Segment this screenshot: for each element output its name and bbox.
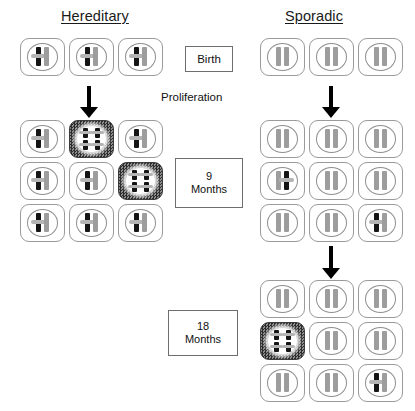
- normal-chromosome-icon: [333, 129, 338, 148]
- normal-chromosome-icon: [284, 213, 289, 232]
- cell-grid-sporadic-18-months: [258, 278, 405, 404]
- chromosome-group: [67, 36, 116, 78]
- normal-chromosome-icon: [284, 129, 289, 148]
- stage-label-18-months-number: 18: [197, 320, 209, 333]
- chromosome-group: [307, 118, 356, 160]
- mutated-chromosome-icon: [83, 140, 88, 150]
- chromosome-group: [307, 320, 356, 362]
- mutated-chromosome-icon: [85, 213, 90, 232]
- chromosome-group: [356, 36, 405, 78]
- chromosome-group: [18, 202, 67, 244]
- normal-chromosome-icon: [142, 213, 147, 232]
- chromosome-group: [116, 160, 165, 202]
- normal-chromosome-icon: [333, 373, 338, 392]
- chromosome-group: [356, 118, 405, 160]
- mutated-chromosome-icon: [36, 129, 41, 148]
- cell: [18, 160, 67, 202]
- normal-chromosome-icon: [333, 47, 338, 66]
- column-title-hereditary: Hereditary: [61, 8, 129, 24]
- mutated-chromosome-icon: [134, 129, 139, 148]
- normal-chromosome-icon: [44, 47, 49, 66]
- mutated-chromosome-icon: [132, 182, 137, 192]
- chromosome-group: [18, 118, 67, 160]
- cell: [307, 118, 356, 160]
- normal-chromosome-icon: [44, 213, 49, 232]
- cell: [258, 202, 307, 244]
- cell-grid-hereditary-9-months: [18, 118, 165, 244]
- cell: [67, 160, 116, 202]
- normal-chromosome-icon: [382, 213, 387, 232]
- normal-chromosome-icon: [276, 373, 281, 392]
- cell: [67, 36, 116, 78]
- tumor-cell: [116, 160, 165, 202]
- tumor-cell: [67, 118, 116, 160]
- chromosome-group: [307, 278, 356, 320]
- chromosome-group: [67, 118, 116, 160]
- stage-label-9-months-unit: Months: [191, 183, 227, 196]
- cell: [307, 36, 356, 78]
- chromosome-group: [18, 160, 67, 202]
- chromosome-group: [258, 160, 307, 202]
- chromosome-group: [18, 36, 67, 78]
- stage-label-18-months: 18 Months: [168, 310, 238, 356]
- arrow-down-icon-sporadic-9mo-to-18mo: [320, 246, 342, 280]
- chromosome-group: [67, 160, 116, 202]
- mutated-chromosome-icon: [144, 182, 149, 192]
- cell: [116, 202, 165, 244]
- mutated-chromosome-icon: [274, 330, 279, 340]
- normal-chromosome-icon: [142, 47, 147, 66]
- cell-grid-sporadic-birth: [258, 36, 405, 78]
- normal-chromosome-icon: [44, 129, 49, 148]
- cell: [307, 320, 356, 362]
- stage-label-9-months: 9 Months: [175, 158, 243, 208]
- normal-chromosome-icon: [93, 47, 98, 66]
- normal-chromosome-icon: [284, 47, 289, 66]
- chromosome-group: [356, 202, 405, 244]
- cell: [258, 278, 307, 320]
- arrow-shaft: [87, 86, 91, 108]
- normal-chromosome-icon: [93, 213, 98, 232]
- cell: [258, 160, 307, 202]
- normal-chromosome-icon: [333, 171, 338, 190]
- arrow-down-icon-hereditary-birth-to-9mo: [78, 86, 100, 118]
- cell: [258, 36, 307, 78]
- normal-chromosome-icon: [333, 213, 338, 232]
- normal-chromosome-icon: [374, 289, 379, 308]
- cell: [307, 160, 356, 202]
- cell: [356, 118, 405, 160]
- chromosome-group: [258, 278, 307, 320]
- cell: [356, 160, 405, 202]
- normal-chromosome-icon: [276, 129, 281, 148]
- chromosome-group: [258, 202, 307, 244]
- chromosome-group: [258, 36, 307, 78]
- normal-chromosome-icon: [142, 129, 147, 148]
- cell: [356, 202, 405, 244]
- cell: [307, 202, 356, 244]
- mutated-chromosome-icon: [36, 213, 41, 232]
- normal-chromosome-icon: [382, 373, 387, 392]
- normal-chromosome-icon: [382, 129, 387, 148]
- mutated-chromosome-icon: [85, 171, 90, 190]
- chromosome-group: [258, 118, 307, 160]
- chromosome-group: [258, 362, 307, 404]
- normal-chromosome-icon: [374, 129, 379, 148]
- arrow-head: [80, 107, 98, 118]
- mutated-chromosome-icon: [374, 373, 379, 392]
- tumor-cell: [258, 320, 307, 362]
- chromosome-group: [356, 278, 405, 320]
- stage-label-birth: Birth: [185, 46, 233, 72]
- chromosome-group: [356, 362, 405, 404]
- chromosome-group: [67, 202, 116, 244]
- chromosome-group: [258, 320, 307, 362]
- chromosome-group: [307, 160, 356, 202]
- stage-label-proliferation: Proliferation: [161, 91, 222, 103]
- arrow-shaft: [329, 246, 333, 269]
- chromosome-group: [307, 36, 356, 78]
- chromosome-group: [307, 202, 356, 244]
- normal-chromosome-icon: [325, 373, 330, 392]
- cell-grid-sporadic-9-months: [258, 118, 405, 244]
- normal-chromosome-icon: [333, 331, 338, 350]
- normal-chromosome-icon: [284, 289, 289, 308]
- normal-chromosome-icon: [93, 171, 98, 190]
- cell: [356, 362, 405, 404]
